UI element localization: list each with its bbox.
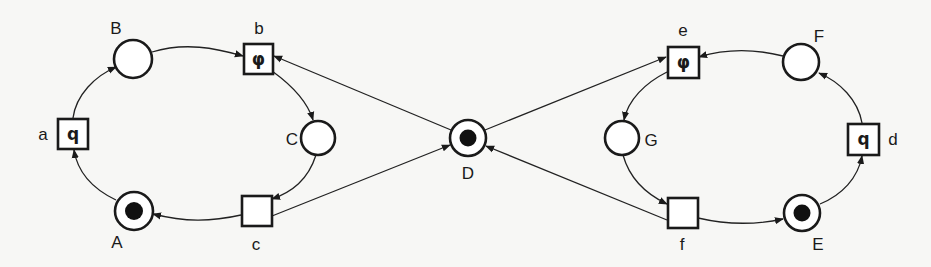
place-label-G: G [644, 131, 657, 150]
arc-a-to-B [73, 67, 116, 118]
transition-label-d: d [888, 130, 897, 149]
arc-F-to-e [699, 51, 783, 57]
arc-f-to-E [698, 218, 783, 223]
place-C: C [286, 121, 335, 155]
place-label-F: F [814, 27, 824, 46]
place-B: B [110, 19, 152, 78]
place-label-E: E [812, 235, 823, 254]
place-F: F [783, 27, 824, 80]
transition-label-a: a [38, 125, 48, 144]
arc-D-to-e [485, 57, 666, 130]
transition-inscription-d: q [857, 129, 869, 149]
place-label-B: B [110, 19, 121, 38]
transition-c: c [242, 196, 272, 254]
arc-c-to-A [153, 214, 241, 220]
transition-d: q d [848, 124, 898, 155]
place-label-D: D [462, 164, 474, 183]
place-E: E [784, 195, 824, 254]
place-label-A: A [111, 233, 123, 252]
arc-b-to-C [272, 71, 313, 120]
transition-label-b: b [254, 19, 263, 38]
arc-e-to-G [624, 72, 667, 120]
arc-c-to-D [272, 145, 450, 216]
arcs-left-loop [73, 47, 316, 220]
transition-e: φ e [668, 21, 699, 78]
transition-inscription-a: q [67, 124, 79, 144]
place-D: D [450, 120, 486, 183]
arcs-right-loop [623, 51, 862, 224]
arc-A-to-a [74, 150, 116, 200]
token-D [460, 130, 477, 147]
place-A: A [111, 192, 153, 252]
arc-B-to-b [152, 47, 243, 56]
arc-f-to-D [486, 146, 667, 220]
transition-label-f: f [680, 235, 685, 254]
token-E [794, 205, 811, 222]
place-label-C: C [286, 130, 298, 149]
arc-E-to-d [820, 156, 862, 204]
token-A [125, 202, 143, 220]
transition-f: f [668, 198, 698, 254]
transition-b: φ b [244, 19, 273, 74]
arc-d-to-F [819, 73, 862, 123]
transition-label-c: c [252, 235, 261, 254]
transition-inscription-b: φ [252, 49, 265, 69]
arc-C-to-c [272, 155, 316, 199]
transition-label-e: e [678, 21, 687, 40]
transition-a: q a [38, 119, 88, 149]
petri-net-diagram: B C A D G F E q a φ b c [0, 0, 931, 267]
place-G: G [605, 121, 658, 155]
transition-inscription-e: φ [677, 52, 690, 72]
arc-D-to-b [274, 56, 451, 130]
arc-G-to-f [623, 155, 667, 204]
